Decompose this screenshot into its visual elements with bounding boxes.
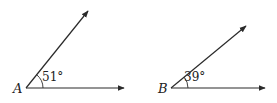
angle-b: B39° bbox=[157, 26, 265, 96]
vertex-label: B bbox=[157, 81, 168, 96]
angle-a: A51° bbox=[12, 11, 124, 96]
angles-group: A51°B39° bbox=[12, 11, 265, 96]
slanted-ray-arrow bbox=[171, 26, 246, 88]
vertex-label: A bbox=[12, 81, 22, 96]
angle-measure-label: 39° bbox=[184, 70, 205, 84]
angle-measure-label: 51° bbox=[42, 70, 63, 84]
angle-diagram: A51°B39° bbox=[0, 0, 277, 103]
